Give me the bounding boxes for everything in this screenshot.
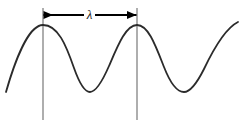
wavelength-diagram-canvas: λ <box>0 0 243 126</box>
wavelength-figure: λ <box>0 0 243 126</box>
lambda-symbol-label: λ <box>86 7 93 22</box>
